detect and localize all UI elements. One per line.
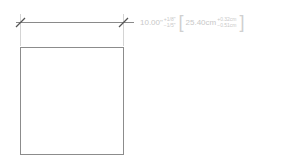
dimension-label[interactable]: 10.00" +1/8" −1/5" [ 25.40cm +0.32cm −0.… <box>140 12 247 32</box>
bracket-open: [ <box>179 13 184 31</box>
bracket-close: ] <box>240 13 245 31</box>
metric-minus-tolerance: −0.51cm <box>217 22 236 28</box>
imperial-tolerance: +1/8" −1/5" <box>164 16 176 28</box>
imperial-minus-tolerance: −1/5" <box>164 22 176 28</box>
imperial-value: 10.00" <box>140 18 163 27</box>
square-shape[interactable] <box>21 48 124 155</box>
metric-tolerance: +0.32cm −0.51cm <box>217 16 236 28</box>
metric-value: 25.40cm <box>186 18 217 27</box>
metric-group: 25.40cm +0.32cm −0.51cm <box>186 16 238 28</box>
